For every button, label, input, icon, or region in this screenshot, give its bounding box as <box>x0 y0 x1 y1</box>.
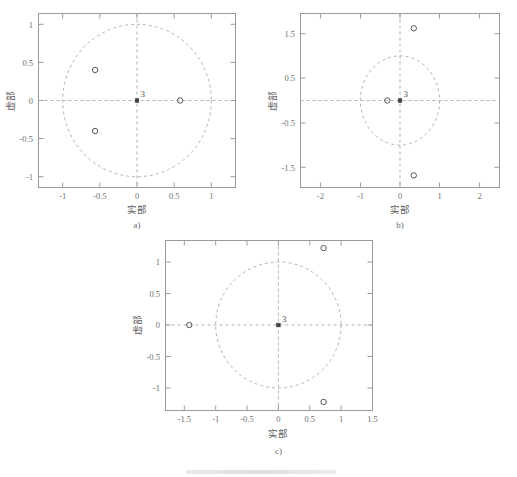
zero-marker <box>92 128 97 133</box>
y-axis-title: 虚部 <box>5 91 16 111</box>
zero-marker <box>321 245 326 250</box>
x-tick-label: 1.5 <box>367 414 378 424</box>
y-tick-label: -0.5 <box>147 352 160 362</box>
panel-c-y-ticklabels: -1 -0.5 0 0.5 1 <box>147 257 160 393</box>
y-axis-title: 虚部 <box>267 91 278 111</box>
zero-marker <box>411 26 416 31</box>
x-tick-label: -0.5 <box>240 414 253 424</box>
x-axis-title: 实部 <box>390 204 410 215</box>
panel-b-x-ticklabels: -2 -1 0 1 2 <box>317 191 482 201</box>
x-tick-label: -1 <box>59 191 66 201</box>
x-axis-title: 实部 <box>127 204 147 215</box>
panel-a-plot: 3 -1 -0.5 0 0.5 1 -1 -0.5 0 0.5 1 实部 虚部 … <box>0 0 252 232</box>
panel-a-y-ticklabels: -1 -0.5 0 0.5 1 <box>20 20 33 182</box>
panel-c-plot: 3 -1.5 -1 -0.5 0 0.5 1 1.5 -1 -0.5 0 0.5… <box>127 232 392 477</box>
panel-b-plot: 3 -2 -1 0 1 2 -1.5 -0.5 0.5 1.5 实部 虚部 b) <box>262 0 517 232</box>
x-tick-label: -1.5 <box>178 414 191 424</box>
x-tick-label: -1 <box>357 191 364 201</box>
x-tick-label: -2 <box>317 191 324 201</box>
y-tick-label: 0 <box>156 320 160 330</box>
y-tick-label: -1 <box>153 383 160 393</box>
panel-caption: b) <box>396 220 404 230</box>
panel-b: 3 -2 -1 0 1 2 -1.5 -0.5 0.5 1.5 实部 虚部 b) <box>262 0 517 232</box>
x-tick-label: 0 <box>398 191 402 201</box>
pole-marker <box>277 323 281 327</box>
zero-marker <box>321 399 326 404</box>
x-tick-label: 2 <box>477 191 481 201</box>
y-tick-label: 0 <box>29 96 33 106</box>
panel-c: 3 -1.5 -1 -0.5 0 0.5 1 1.5 -1 -0.5 0 0.5… <box>127 232 392 477</box>
x-tick-label: -1 <box>212 414 219 424</box>
x-tick-label: 0 <box>135 191 139 201</box>
y-tick-label: 0.5 <box>149 289 160 299</box>
y-tick-label: -1.5 <box>282 163 295 173</box>
pole-zero-figure: 3 -1 -0.5 0 0.5 1 -1 -0.5 0 0.5 1 实部 虚部 … <box>0 0 517 477</box>
x-tick-label: 0.5 <box>169 191 180 201</box>
zero-marker <box>411 173 416 178</box>
pole-order-label: 3 <box>404 89 409 99</box>
y-tick-label: 0.5 <box>22 58 33 68</box>
x-tick-label: 1 <box>339 414 343 424</box>
pole-order-label: 3 <box>282 314 287 324</box>
page-artifact <box>186 470 336 474</box>
panel-caption: a) <box>134 220 141 230</box>
pole-marker <box>398 99 402 103</box>
panel-a: 3 -1 -0.5 0 0.5 1 -1 -0.5 0 0.5 1 实部 虚部 … <box>0 0 252 232</box>
zero-marker <box>92 67 97 72</box>
y-tick-label: -0.5 <box>282 118 295 128</box>
y-tick-label: 0.5 <box>284 73 295 83</box>
x-tick-label: 1 <box>437 191 441 201</box>
x-tick-label: 0 <box>276 414 280 424</box>
y-tick-label: -1 <box>26 172 33 182</box>
x-axis-title: 实部 <box>268 428 288 439</box>
y-axis-title: 虚部 <box>132 315 143 335</box>
y-tick-label: 1.5 <box>284 29 295 39</box>
y-tick-label: 1 <box>156 257 160 267</box>
pole-order-label: 3 <box>141 89 146 99</box>
y-tick-label: 1 <box>29 20 33 30</box>
y-tick-label: -0.5 <box>20 134 33 144</box>
panel-c-x-ticklabels: -1.5 -1 -0.5 0 0.5 1 1.5 <box>178 414 378 424</box>
pole-marker <box>135 99 139 103</box>
x-tick-label: 1 <box>209 191 213 201</box>
panel-a-x-ticklabels: -1 -0.5 0 0.5 1 <box>59 191 213 201</box>
panel-b-y-ticklabels: -1.5 -0.5 0.5 1.5 <box>282 29 295 173</box>
panel-caption: c) <box>275 446 282 456</box>
x-tick-label: -0.5 <box>93 191 106 201</box>
x-tick-label: 0.5 <box>304 414 315 424</box>
